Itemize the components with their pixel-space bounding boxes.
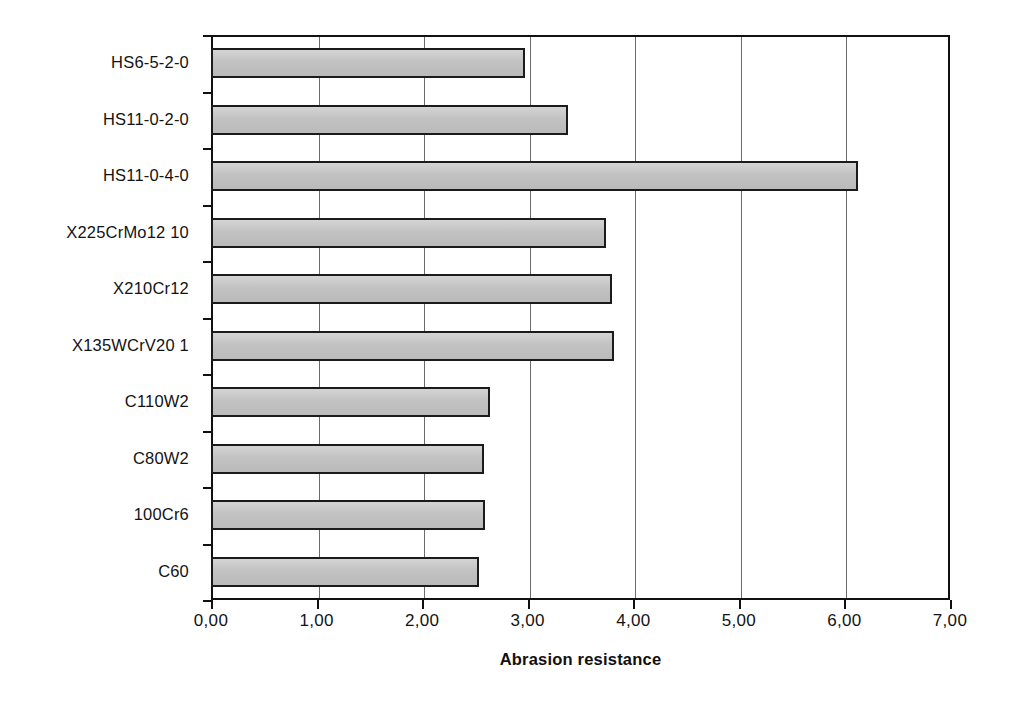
- category-label: HS11-0-2-0: [103, 92, 189, 148]
- bar-row: [211, 431, 950, 487]
- bar: [211, 48, 525, 78]
- y-axis-tick: [203, 431, 211, 433]
- bar-chart: HS6-5-2-0HS11-0-2-0HS11-0-4-0X225CrMo12 …: [0, 0, 1017, 703]
- category-label: X210Cr12: [113, 261, 189, 317]
- x-axis-label: 4,00: [588, 611, 678, 631]
- bar-row: [211, 318, 950, 374]
- y-axis-tick: [203, 92, 211, 94]
- x-axis-label: 1,00: [272, 611, 362, 631]
- bar-row: [211, 205, 950, 261]
- category-label: C60: [158, 544, 189, 600]
- bar: [211, 161, 858, 191]
- x-axis-tick: [739, 600, 741, 609]
- x-axis-tick: [422, 600, 424, 609]
- category-label: X225CrMo12 10: [66, 205, 189, 261]
- bar: [211, 444, 484, 474]
- bar: [211, 331, 614, 361]
- x-axis-tick: [211, 600, 213, 609]
- bar: [211, 218, 606, 248]
- y-axis-tick: [203, 487, 211, 489]
- bars-layer: [211, 35, 950, 600]
- y-axis-tick: [203, 35, 211, 37]
- category-label: C80W2: [133, 431, 189, 487]
- bar: [211, 557, 479, 587]
- x-axis-label: 5,00: [694, 611, 784, 631]
- bar: [211, 500, 485, 530]
- y-axis-tick: [203, 205, 211, 207]
- bar-row: [211, 35, 950, 91]
- bar: [211, 105, 568, 135]
- category-label: C110W2: [125, 374, 189, 430]
- x-axis-tick: [844, 600, 846, 609]
- bar-row: [211, 148, 950, 204]
- x-axis-title: Abrasion resistance: [211, 650, 950, 669]
- y-axis-tick: [203, 544, 211, 546]
- category-label: HS6-5-2-0: [111, 35, 189, 91]
- bar-row: [211, 374, 950, 430]
- category-label: HS11-0-4-0: [103, 148, 189, 204]
- x-axis-label: 3,00: [483, 611, 573, 631]
- y-axis-tick: [203, 148, 211, 150]
- x-axis-label: 2,00: [377, 611, 467, 631]
- y-axis-tick: [203, 600, 211, 602]
- y-axis-tick: [203, 261, 211, 263]
- bar-row: [211, 544, 950, 600]
- y-axis-tick: [203, 318, 211, 320]
- bar-row: [211, 261, 950, 317]
- category-label: 100Cr6: [134, 487, 189, 543]
- category-label: X135WCrV20 1: [72, 318, 189, 374]
- x-axis-tick: [633, 600, 635, 609]
- x-axis-tick: [317, 600, 319, 609]
- x-axis-tick: [950, 600, 952, 609]
- bar-row: [211, 92, 950, 148]
- bar: [211, 274, 612, 304]
- bar-row: [211, 487, 950, 543]
- x-axis-label: 0,00: [166, 611, 256, 631]
- x-axis-label: 7,00: [905, 611, 995, 631]
- category-axis-labels: HS6-5-2-0HS11-0-2-0HS11-0-4-0X225CrMo12 …: [0, 35, 203, 600]
- x-axis-tick: [528, 600, 530, 609]
- x-axis-label: 6,00: [799, 611, 889, 631]
- bar: [211, 387, 490, 417]
- y-axis-tick: [203, 374, 211, 376]
